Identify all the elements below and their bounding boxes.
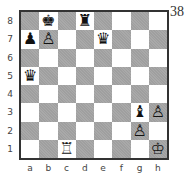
square-f4[interactable] (112, 85, 130, 103)
square-e1[interactable] (94, 140, 112, 158)
square-c7[interactable] (58, 30, 76, 48)
rank-label: 1 (6, 144, 14, 154)
square-d1[interactable] (76, 140, 94, 158)
file-label: e (94, 163, 112, 173)
square-b5[interactable] (39, 67, 57, 85)
square-g8[interactable] (131, 12, 149, 30)
square-g6[interactable] (131, 49, 149, 67)
square-b1[interactable] (39, 140, 57, 158)
square-h7[interactable] (149, 30, 167, 48)
file-label: a (21, 163, 39, 173)
white-rook-icon[interactable]: ♖ (59, 141, 73, 157)
square-g4[interactable] (131, 85, 149, 103)
square-c6[interactable] (58, 49, 76, 67)
square-a4[interactable] (21, 85, 39, 103)
square-g1[interactable] (131, 140, 149, 158)
rank-label: 6 (6, 53, 14, 63)
rank-label: 8 (6, 16, 14, 26)
square-e8[interactable] (94, 12, 112, 30)
square-f7[interactable] (112, 30, 130, 48)
rank-label: 2 (6, 126, 14, 136)
square-b2[interactable] (39, 122, 57, 140)
file-label: d (76, 163, 94, 173)
black-bishop-icon[interactable]: ♝ (132, 104, 146, 120)
file-label: g (131, 163, 149, 173)
square-c8[interactable] (58, 12, 76, 30)
white-pawn-icon[interactable]: ♙ (132, 123, 146, 139)
square-g3[interactable]: ♝ (131, 103, 149, 121)
square-g5[interactable] (131, 67, 149, 85)
square-e2[interactable] (94, 122, 112, 140)
square-g7[interactable] (131, 30, 149, 48)
square-d2[interactable] (76, 122, 94, 140)
square-b4[interactable] (39, 85, 57, 103)
file-label: f (112, 163, 130, 173)
square-d5[interactable] (76, 67, 94, 85)
square-b6[interactable] (39, 49, 57, 67)
rank-label: 3 (6, 107, 14, 117)
square-a5[interactable]: ♛ (21, 67, 39, 85)
square-h8[interactable] (149, 12, 167, 30)
square-h2[interactable] (149, 122, 167, 140)
square-e3[interactable] (94, 103, 112, 121)
square-g2[interactable]: ♙ (131, 122, 149, 140)
black-queen-icon[interactable]: ♛ (96, 31, 110, 47)
white-pawn-icon[interactable]: ♙ (151, 104, 165, 120)
black-queen-icon[interactable]: ♛ (23, 68, 37, 84)
square-b8[interactable]: ♚ (39, 12, 57, 30)
square-b3[interactable] (39, 103, 57, 121)
square-a3[interactable] (21, 103, 39, 121)
square-c3[interactable] (58, 103, 76, 121)
chess-board: ♚♜♟♙♛♛♝♙♙♖♔ (19, 10, 169, 160)
square-f3[interactable] (112, 103, 130, 121)
black-king-icon[interactable]: ♚ (41, 13, 55, 29)
square-c1[interactable]: ♖ (58, 140, 76, 158)
square-d3[interactable] (76, 103, 94, 121)
square-e6[interactable] (94, 49, 112, 67)
square-h6[interactable] (149, 49, 167, 67)
square-h1[interactable]: ♔ (149, 140, 167, 158)
square-d6[interactable] (76, 49, 94, 67)
square-h3[interactable]: ♙ (149, 103, 167, 121)
white-king-icon[interactable]: ♔ (151, 141, 165, 157)
square-a1[interactable] (21, 140, 39, 158)
square-b7[interactable]: ♙ (39, 30, 57, 48)
square-h4[interactable] (149, 85, 167, 103)
square-f5[interactable] (112, 67, 130, 85)
square-c4[interactable] (58, 85, 76, 103)
square-f8[interactable] (112, 12, 130, 30)
square-a6[interactable] (21, 49, 39, 67)
file-label: c (58, 163, 76, 173)
square-a2[interactable] (21, 122, 39, 140)
square-e4[interactable] (94, 85, 112, 103)
file-label: h (149, 163, 167, 173)
diagram-number: 38 (170, 4, 184, 20)
rank-label: 4 (6, 89, 14, 99)
square-d7[interactable] (76, 30, 94, 48)
black-rook-icon[interactable]: ♜ (78, 13, 92, 29)
square-a7[interactable]: ♟ (21, 30, 39, 48)
square-d4[interactable] (76, 85, 94, 103)
black-pawn-icon[interactable]: ♟ (23, 31, 37, 47)
square-f1[interactable] (112, 140, 130, 158)
rank-label: 7 (6, 34, 14, 44)
square-f2[interactable] (112, 122, 130, 140)
square-a8[interactable] (21, 12, 39, 30)
square-f6[interactable] (112, 49, 130, 67)
square-e7[interactable]: ♛ (94, 30, 112, 48)
square-d8[interactable]: ♜ (76, 12, 94, 30)
rank-label: 5 (6, 71, 14, 81)
square-c2[interactable] (58, 122, 76, 140)
square-c5[interactable] (58, 67, 76, 85)
white-pawn-icon[interactable]: ♙ (41, 31, 55, 47)
square-h5[interactable] (149, 67, 167, 85)
file-label: b (39, 163, 57, 173)
square-e5[interactable] (94, 67, 112, 85)
